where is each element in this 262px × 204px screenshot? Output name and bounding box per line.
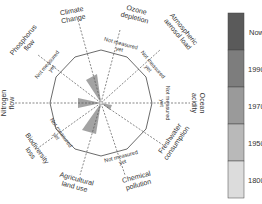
- legend-swatch-1950s: [228, 124, 244, 161]
- legend: Now 1990s 1970s 1950s 1800s: [228, 13, 262, 198]
- svg-text:Phosphorus: Phosphorus: [8, 23, 38, 57]
- not-measured-biodiversity: Not measured yet: [44, 117, 74, 152]
- label-chemical-pollution: Chemical pollution: [121, 169, 154, 192]
- legend-label-1950s: 1950s: [248, 139, 262, 148]
- label-ocean-acidity: Ocean acidity: [190, 93, 206, 114]
- center-point: [99, 101, 103, 105]
- label-freshwater-consumption: Freshwater consumption: [155, 120, 191, 162]
- legend-label-1970s: 1970s: [248, 102, 262, 111]
- label-atmospheric-aerosol-load: Atmospheric aerosol load: [163, 12, 200, 52]
- wedge-agricultural-land-use: [82, 103, 101, 134]
- legend-label-now: Now: [249, 28, 262, 37]
- legend-label-1800s: 1800s: [248, 176, 262, 185]
- svg-text:yet: yet: [115, 45, 124, 53]
- not-measured-aerosol: Not measured yet: [135, 49, 166, 83]
- svg-text:yet: yet: [118, 158, 127, 166]
- svg-text:flow: flow: [8, 96, 15, 109]
- label-climate-change: Climate Change: [59, 5, 86, 26]
- label-nitrogen-flow: Nitrogen flow: [0, 90, 15, 117]
- not-measured-phosphorus: Not measured yet: [34, 49, 65, 83]
- legend-swatch-1800s: [228, 161, 244, 198]
- wedges: [78, 74, 112, 134]
- planetary-boundaries-chart: Climate Change Ozone depletion Atmospher…: [0, 0, 262, 204]
- label-biodiversity-loss: Biodiversity loss: [18, 132, 51, 170]
- label-agricultural-land-use: Agricultural land use: [57, 171, 95, 195]
- svg-text:Ocean: Ocean: [199, 93, 206, 114]
- legend-swatch-1990s: [228, 50, 244, 87]
- not-measured-ozone: Not measured yet: [102, 36, 138, 57]
- legend-swatch-1970s: [228, 87, 244, 124]
- wedge-climate-change: [86, 74, 101, 103]
- svg-text:acidity: acidity: [190, 93, 198, 113]
- svg-text:Not measured: Not measured: [49, 117, 74, 149]
- legend-label-1990s: 1990s: [248, 65, 262, 74]
- label-ozone-depletion: Ozone depletion: [120, 3, 152, 26]
- svg-text:Nitrogen: Nitrogen: [0, 90, 8, 117]
- not-measured-ocean: Not measured yet: [159, 86, 171, 121]
- svg-text:yet: yet: [159, 99, 165, 107]
- svg-text:Not measured: Not measured: [34, 49, 61, 79]
- legend-swatch-now: [228, 13, 244, 50]
